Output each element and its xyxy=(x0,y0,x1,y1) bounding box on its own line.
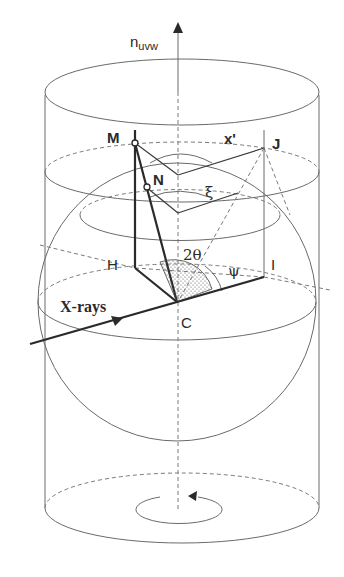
label-x-prime: x' xyxy=(224,130,236,147)
diffraction-geometry-diagram: nuvw M x' J N ξ H 2θ ψ I X-rays C xyxy=(0,0,344,577)
point-N xyxy=(144,184,150,190)
label-J: J xyxy=(272,135,280,152)
cylinder-bottom-front xyxy=(45,508,319,543)
point-M xyxy=(132,140,138,146)
cylinder-bottom-back xyxy=(45,473,319,508)
label-N: N xyxy=(153,171,164,188)
cylinder-top-ellipse xyxy=(45,59,319,125)
line-left-H xyxy=(40,245,135,268)
label-two-theta: 2θ xyxy=(183,246,202,264)
rotation-arrow-icon xyxy=(188,491,197,501)
inner-circle-front xyxy=(80,215,280,241)
axis-arrow-icon xyxy=(173,22,183,33)
axis-label: nuvw xyxy=(130,33,158,52)
rotation-circle xyxy=(136,497,222,524)
label-C: C xyxy=(181,314,192,331)
line-center-J xyxy=(178,148,264,175)
line-I-right xyxy=(264,277,330,290)
label-psi: ψ xyxy=(228,262,240,280)
label-M: M xyxy=(107,129,120,146)
label-I: I xyxy=(271,256,275,273)
label-xi: ξ xyxy=(205,183,213,201)
label-xrays: X-rays xyxy=(60,298,106,316)
label-H: H xyxy=(107,256,118,273)
xi-arc-lower xyxy=(150,191,212,198)
